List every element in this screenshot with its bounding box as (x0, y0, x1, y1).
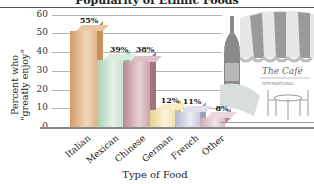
value-label-italian: 55% (74, 15, 104, 25)
x-axis-line (40, 127, 314, 129)
y-axis-label: Percent who "greatly enjoy" (10, 35, 30, 135)
chart-title: Popularity of Ethnic Foods (0, 0, 314, 7)
bar-other (200, 112, 234, 127)
y-tick-60: 60 (34, 9, 48, 19)
value-label-chinese: 38% (130, 44, 160, 54)
svg-text:INTERNATIONAL: INTERNATIONAL (262, 81, 295, 86)
value-label-other: 8% (207, 103, 237, 113)
y-tick-20: 20 (34, 84, 48, 94)
y-tick-40: 40 (34, 46, 48, 56)
floor-line (220, 122, 314, 123)
y-tick-30: 30 (34, 65, 48, 75)
y-tick-50: 50 (34, 27, 48, 37)
x-axis-label: Type of Food (80, 169, 230, 180)
y-tick-0: 0 (34, 121, 48, 131)
svg-text:The Café: The Café (262, 66, 304, 76)
y-tick-10: 10 (34, 102, 48, 112)
value-label-french: 11% (177, 96, 207, 106)
